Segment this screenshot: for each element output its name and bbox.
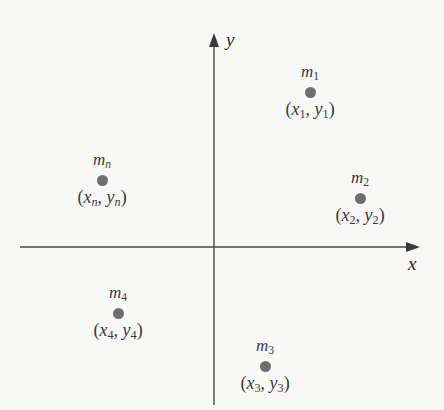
mass-label-m3: m3 [256,337,274,357]
mass-coordinates-m3: (x3, y3) [240,374,289,395]
mass-label-subscript-m1: 1 [313,70,319,83]
mass-dot-m2 [355,193,366,204]
coordinate-plane-figure: y x m1 (x1, y1) m2 (x2, y2) mn (xn, yn) … [0,0,444,410]
mass-dot-m4 [113,308,124,319]
mass-dot-m1 [305,87,316,98]
mass-label-m1: m1 [301,63,319,83]
mass-label-m4: m4 [109,284,127,304]
y-axis-arrowhead-icon [209,33,219,47]
x-axis-label: x [408,254,416,273]
mass-label-subscript-m4: 4 [121,291,127,304]
mass-dot-m3 [260,361,271,372]
x-axis-arrowhead-icon [406,242,420,252]
mass-coordinates-mn: (xn, yn) [77,188,126,209]
mass-label-m2: m2 [351,169,369,189]
mass-coordinates-m2: (x2, y2) [335,206,384,227]
mass-label-subscript-mn: n [105,158,111,171]
y-axis-label: y [226,30,234,49]
mass-label-mn: mn [93,151,111,171]
mass-label-subscript-m2: 2 [363,176,369,189]
mass-dot-mn [97,175,108,186]
mass-coordinates-m1: (x1, y1) [285,100,334,121]
mass-label-subscript-m3: 3 [268,344,274,357]
mass-coordinates-m4: (x4, y4) [93,321,142,342]
